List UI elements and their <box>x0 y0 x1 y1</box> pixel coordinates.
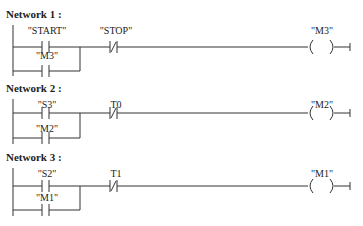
no-contact-icon <box>42 132 49 144</box>
nc-contact-icon <box>110 41 117 53</box>
network-3-rung <box>13 168 350 216</box>
nc-contact-icon <box>110 107 117 119</box>
network-1-rung <box>13 25 350 77</box>
coil-icon <box>310 106 333 120</box>
nc-contact-icon <box>110 180 117 192</box>
coil-icon <box>310 40 333 54</box>
ladder-diagram <box>0 0 363 226</box>
no-contact-icon <box>42 204 49 216</box>
no-contact-icon <box>42 41 49 53</box>
no-contact-icon <box>42 107 49 119</box>
coil-icon <box>310 179 333 193</box>
network-2-rung <box>13 99 350 144</box>
no-contact-icon <box>42 65 49 77</box>
no-contact-icon <box>42 180 49 192</box>
